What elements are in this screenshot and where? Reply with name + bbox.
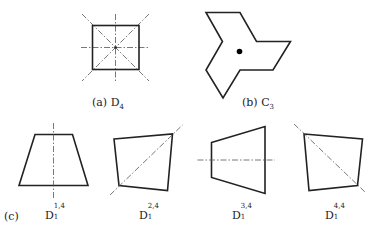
- caption-d1-1-4-superscript: 1,4: [54, 202, 65, 210]
- d1-3-4-shape: [198, 127, 276, 194]
- caption-d1-3-4: D3,41: [232, 209, 255, 222]
- c3-rotation-center-dot: [237, 49, 243, 55]
- caption-d1-1-4-subscript: 1: [54, 213, 58, 221]
- caption-d1-1-4: D1,41: [45, 209, 68, 222]
- d1-1-4-shape: [19, 123, 88, 198]
- caption-d1-2-4: D2,41: [139, 209, 162, 222]
- caption-d1-2-4-subscript: 1: [148, 213, 152, 221]
- panel-a-d4: [81, 14, 150, 82]
- caption-a-prefix: (a): [92, 96, 107, 109]
- caption-a: (a) D4: [92, 97, 124, 108]
- caption-b-subscript: 3: [270, 103, 274, 111]
- d1-2-4-shape: [110, 125, 183, 195]
- caption-d1-4-4: D4,41: [325, 209, 348, 222]
- caption-d1-2-4-group: D: [139, 209, 148, 222]
- caption-d1-4-4-superscript: 4,4: [334, 202, 345, 210]
- trapezoid-2: [114, 134, 173, 191]
- d1-4-4-shape: [294, 124, 365, 192]
- symmetry-figure: [0, 0, 376, 234]
- mirror-axis-4: [294, 124, 365, 192]
- caption-b: (b) C3: [242, 97, 274, 108]
- caption-a-subscript: 4: [119, 103, 123, 111]
- caption-d1-4-4-subscript: 1: [334, 213, 338, 221]
- panel-c-d1-variants: [19, 123, 365, 198]
- caption-c: (c): [4, 211, 19, 222]
- caption-b-prefix: (b): [242, 96, 258, 109]
- caption-d1-1-4-group: D: [45, 209, 54, 222]
- caption-d1-4-4-group: D: [325, 209, 334, 222]
- d4-center-point: [114, 46, 117, 49]
- caption-b-group: C: [261, 96, 269, 109]
- caption-d1-3-4-subscript: 1: [241, 213, 245, 221]
- caption-c-prefix: (c): [4, 210, 19, 223]
- caption-d1-2-4-superscript: 2,4: [148, 202, 159, 210]
- c3-pinwheel-shape: [206, 13, 291, 99]
- caption-d1-3-4-superscript: 3,4: [241, 202, 252, 210]
- panel-b-c3: [206, 13, 291, 99]
- caption-d1-3-4-group: D: [232, 209, 241, 222]
